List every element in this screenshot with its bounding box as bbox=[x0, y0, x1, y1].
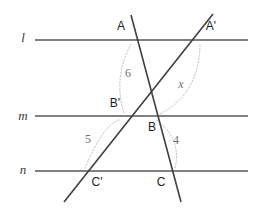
measure-label-segment-B-C: 4 bbox=[173, 133, 179, 147]
point-label-Bprime: B' bbox=[110, 96, 120, 110]
point-label-C: C bbox=[157, 175, 166, 189]
point-label-Cprime: C' bbox=[92, 175, 103, 189]
measure-label-segment-Aprime-B: x bbox=[177, 77, 184, 91]
measure-label-segment-A-Bprime: 6 bbox=[125, 66, 131, 80]
line-label-l: l bbox=[21, 30, 25, 45]
point-label-Aprime: A' bbox=[206, 19, 216, 33]
point-label-B: B bbox=[148, 120, 156, 134]
line-label-m: m bbox=[18, 108, 27, 123]
geometry-figure: lmn AA'B'BC'C 6x54 bbox=[0, 0, 265, 216]
point-label-A: A bbox=[117, 19, 125, 33]
figure-canvas: lmn AA'B'BC'C 6x54 bbox=[0, 0, 265, 216]
figure-background bbox=[0, 0, 265, 216]
measure-label-segment-Bprime-Cprime: 5 bbox=[85, 132, 91, 146]
line-label-n: n bbox=[20, 162, 27, 177]
